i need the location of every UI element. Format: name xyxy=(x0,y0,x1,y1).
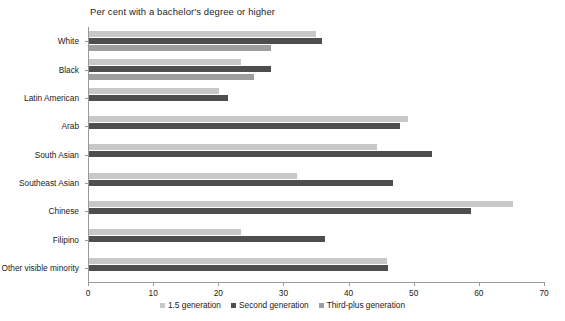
bar xyxy=(89,74,254,80)
legend-item: 1.5 generation xyxy=(160,300,221,310)
x-axis-tick xyxy=(153,282,154,286)
bar xyxy=(89,116,408,122)
bar-group xyxy=(89,229,545,249)
bar xyxy=(89,236,325,242)
bar-group xyxy=(89,173,545,193)
bar-group xyxy=(89,116,545,136)
legend-item: Third-plus generation xyxy=(319,300,405,310)
bar-group xyxy=(89,258,545,278)
bar xyxy=(89,59,241,65)
y-axis-label: South Asian xyxy=(0,150,85,160)
legend-label: 1.5 generation xyxy=(168,300,221,310)
y-axis-tick xyxy=(85,41,88,42)
y-axis-label: Other visible minority xyxy=(0,263,85,273)
y-axis-tick xyxy=(85,268,88,269)
legend-label: Second generation xyxy=(239,300,309,310)
bar-chart: Per cent with a bachelor's degree or hig… xyxy=(0,0,565,321)
bar xyxy=(89,66,271,72)
x-axis-tick-label: 40 xyxy=(344,288,353,298)
x-axis-tick xyxy=(349,282,350,286)
bar-group xyxy=(89,201,545,221)
x-axis-line xyxy=(88,282,545,283)
y-axis-tick xyxy=(85,240,88,241)
x-axis-tick-label: 60 xyxy=(474,288,483,298)
x-axis-tick-label: 70 xyxy=(539,288,548,298)
y-axis-label: Latin American xyxy=(0,93,85,103)
bar-group xyxy=(89,31,545,51)
bar xyxy=(89,95,228,101)
bar xyxy=(89,88,219,94)
x-axis-tick xyxy=(88,282,89,286)
legend-item: Second generation xyxy=(231,300,309,310)
x-axis-tick-label: 10 xyxy=(149,288,158,298)
plot-area: 010203040506070 xyxy=(88,27,545,282)
bar xyxy=(89,144,377,150)
x-axis-tick xyxy=(479,282,480,286)
y-axis-tick xyxy=(85,70,88,71)
bar-group xyxy=(89,59,545,79)
chart-legend: 1.5 generationSecond generationThird-plu… xyxy=(0,300,565,310)
x-axis-tick-label: 30 xyxy=(279,288,288,298)
y-axis-label: Black xyxy=(0,65,85,75)
bar xyxy=(89,151,432,157)
y-axis-tick xyxy=(85,98,88,99)
x-axis-tick xyxy=(414,282,415,286)
legend-swatch-icon xyxy=(160,303,165,308)
bar-group xyxy=(89,144,545,164)
bar xyxy=(89,45,271,51)
x-axis-tick xyxy=(218,282,219,286)
y-axis-label: Chinese xyxy=(0,206,85,216)
bar xyxy=(89,31,316,37)
bar xyxy=(89,123,400,129)
bar xyxy=(89,38,322,44)
x-axis-tick xyxy=(283,282,284,286)
chart-title: Per cent with a bachelor's degree or hig… xyxy=(90,6,275,17)
bar-group xyxy=(89,88,545,108)
y-axis-label: Arab xyxy=(0,121,85,131)
bar xyxy=(89,201,513,207)
bar xyxy=(89,258,387,264)
x-axis-tick-label: 0 xyxy=(86,288,91,298)
bar xyxy=(89,229,241,235)
legend-label: Third-plus generation xyxy=(327,300,405,310)
x-axis-tick-label: 20 xyxy=(214,288,223,298)
legend-swatch-icon xyxy=(231,303,236,308)
legend-swatch-icon xyxy=(319,303,324,308)
x-axis-tick-label: 50 xyxy=(409,288,418,298)
x-axis-tick xyxy=(544,282,545,286)
y-axis-label: Filipino xyxy=(0,235,85,245)
bar xyxy=(89,265,388,271)
y-axis-tick xyxy=(85,126,88,127)
y-axis-tick xyxy=(85,183,88,184)
y-axis-label: White xyxy=(0,36,85,46)
y-axis-label: Southeast Asian xyxy=(0,178,85,188)
bar xyxy=(89,180,393,186)
y-axis-tick xyxy=(85,211,88,212)
bar xyxy=(89,173,297,179)
bar xyxy=(89,208,471,214)
y-axis-tick xyxy=(85,155,88,156)
